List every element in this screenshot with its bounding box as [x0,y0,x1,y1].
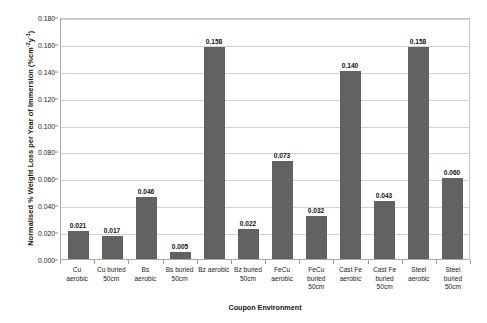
x-axis-category-line: FeCu [266,266,298,275]
x-axis-category-label: Bz buried50cm [231,266,265,292]
x-axis-category-line: Steel [403,266,435,275]
x-axis-tick-mark [60,260,61,264]
plot-area: 0.0210.0170.0460.0050.1580.0220.0730.032… [60,18,470,260]
x-axis-tick-mark [299,260,300,264]
y-axis-tick-label: 0.140 [38,68,55,75]
x-axis-category-line: Cast Fe [334,266,366,275]
y-axis-tick-label: 0.100 [38,122,55,129]
x-axis-category-line: Steel [437,266,469,275]
x-axis-category-line: Bz aerobic [198,266,230,275]
x-axis-category-label: Steelaerobic [402,266,436,292]
bar[interactable]: 0.043 [374,201,395,259]
x-axis-tick-mark [333,260,334,264]
x-axis-category-line: 50cm [232,275,264,284]
x-axis-category-line: 50cm [300,283,332,292]
bar[interactable]: 0.158 [204,47,225,259]
y-axis-tick-label: 0.000 [38,257,55,264]
bar[interactable]: 0.046 [136,197,157,259]
bar-value-label: 0.022 [240,220,257,227]
y-axis-tick-mark [55,98,58,99]
y-axis-tick-label: 0.080 [38,149,55,156]
x-axis-category-line: Bz buried [232,266,264,275]
bar-value-label: 0.032 [308,207,325,214]
bar-value-label: 0.043 [376,192,393,199]
x-axis-title: Coupon Environment [60,303,470,312]
bar-slot: 0.005 [163,19,197,259]
y-axis-tick-label: 0.120 [38,95,55,102]
x-axis-category-line: 50cm [164,275,196,284]
bar-slot: 0.140 [333,19,367,259]
bar[interactable]: 0.021 [68,231,89,259]
x-axis-category-line: aerobic [403,275,435,284]
bar-slot: 0.021 [61,19,95,259]
y-axis-tick-label: 0.020 [38,230,55,237]
bar-value-label: 0.017 [104,227,121,234]
y-axis-tick-mark [55,18,58,19]
bar-value-label: 0.021 [70,222,87,229]
bar[interactable]: 0.017 [102,236,123,259]
x-axis-tick-mark [265,260,266,264]
x-axis-tick-mark [163,260,164,264]
bar-value-label: 0.158 [206,38,223,45]
bar[interactable]: 0.022 [238,229,259,259]
y-axis-tick-mark [55,71,58,72]
bar[interactable]: 0.032 [306,216,327,259]
bar-slot: 0.060 [435,19,469,259]
y-axis-tick-mark [55,206,58,207]
bar-slot: 0.017 [95,19,129,259]
x-axis-category-line: Cast Fe [369,266,401,275]
bar[interactable]: 0.060 [442,178,463,259]
x-axis-category-line: Cu buried [95,266,127,275]
x-axis-category-line: Cu [61,266,93,275]
x-axis-category-label: Cuaerobic [60,266,94,292]
x-axis-category-line: 50cm [95,275,127,284]
y-axis-tick-mark [55,125,58,126]
y-axis-tick-label: 0.040 [38,203,55,210]
x-axis-category-labels: CuaerobicCu buried50cmBsaerobicBs buried… [60,266,470,292]
x-axis-category-line: Bs [129,266,161,275]
bar-chart-figure: Normalised % Weight Loss per Year of Imm… [0,0,487,323]
x-axis-category-label: FeCuaerobic [265,266,299,292]
bar-series: 0.0210.0170.0460.0050.1580.0220.0730.032… [61,19,469,259]
x-axis-category-line: aerobic [266,275,298,284]
bar-slot: 0.043 [367,19,401,259]
bar-value-label: 0.046 [138,188,155,195]
bar[interactable]: 0.073 [272,161,293,259]
x-axis-category-label: Cast Feburied50cm [368,266,402,292]
x-axis-category-line: aerobic [334,275,366,284]
x-axis-category-label: Cast Feaerobic [333,266,367,292]
x-axis-category-line: 50cm [437,283,469,292]
bar-slot: 0.073 [265,19,299,259]
bar-slot: 0.046 [129,19,163,259]
y-axis-tick-label: 0.060 [38,176,55,183]
x-axis-category-line: buried [437,275,469,284]
bar-slot: 0.022 [231,19,265,259]
x-axis-category-label: FeCuburied50cm [299,266,333,292]
y-axis-tick-mark [55,233,58,234]
x-axis-tick-mark [402,260,403,264]
bar-slot: 0.158 [197,19,231,259]
bar[interactable]: 0.140 [340,71,361,259]
x-axis-tick-mark [470,260,471,264]
y-axis-tick-mark [55,260,58,261]
x-axis-category-label: Bsaerobic [128,266,162,292]
y-axis-tick-label: 0.180 [38,15,55,22]
x-axis-category-line: buried [300,275,332,284]
x-axis-category-label: Steelburied50cm [436,266,470,292]
bar-value-label: 0.158 [410,38,427,45]
x-axis-tick-marks [60,260,470,264]
x-axis-category-line: aerobic [61,275,93,284]
bar-slot: 0.032 [299,19,333,259]
bar-value-label: 0.073 [274,152,291,159]
x-axis-tick-mark [368,260,369,264]
x-axis-category-label: Bz aerobic [197,266,231,292]
bar[interactable]: 0.005 [170,252,191,259]
x-axis-tick-mark [436,260,437,264]
x-axis-category-line: 50cm [369,283,401,292]
x-axis-category-line: Bs buried [164,266,196,275]
bar[interactable]: 0.158 [408,47,429,259]
y-axis-tick-labels: 0.1800.1600.1400.1200.1000.0800.0600.040… [26,18,58,260]
bar-value-label: 0.060 [444,169,461,176]
x-axis-category-line: buried [369,275,401,284]
x-axis-category-line: FeCu [300,266,332,275]
